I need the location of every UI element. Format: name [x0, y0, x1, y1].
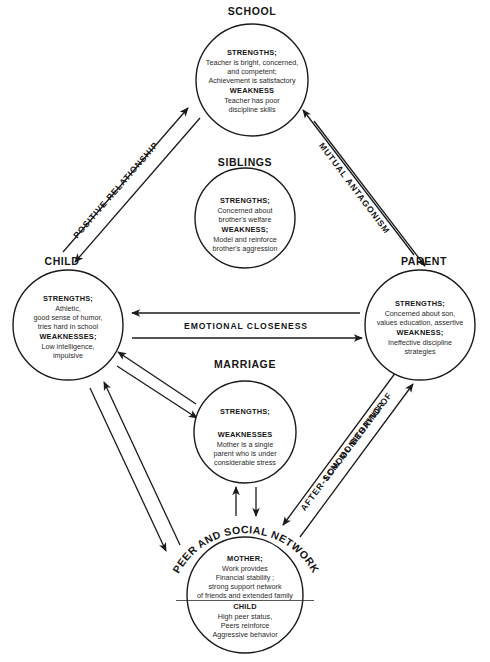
ecomap-svg: POSITIVE RELATIONSHIP MUTUAL ANTAGONISM …: [0, 0, 490, 662]
marriage-weaknesses-line-3: considerable stress: [214, 458, 276, 467]
parent-strengths-line-1: Concerned about son,: [385, 309, 456, 318]
node-child[interactable]: CHILD STRENGTHS; Athletic, good sense of…: [13, 255, 123, 380]
child-weaknesses-heading: WEAKNESSES;: [39, 332, 96, 341]
edge-label-low-monitoring-line2: AFTER-SCHOOL BEHAVIOR: [298, 400, 387, 513]
child-weaknesses-line-1: Low intelligence,: [41, 342, 94, 351]
marriage-weaknesses-line-2: parent who is under: [213, 449, 277, 458]
siblings-weakness-line-2: brother's aggression: [213, 244, 278, 253]
network-mother-line-2: Financial stability ;: [216, 573, 275, 582]
node-school[interactable]: SCHOOL STRENGTHS; Teacher is bright, con…: [196, 5, 308, 136]
node-title-siblings: SIBLINGS: [218, 156, 272, 168]
parent-weakness-line-2: strategies: [404, 347, 436, 356]
edge-marriage-network: [236, 487, 256, 516]
child-strengths-line-2: good sense of humor,: [33, 313, 102, 322]
marriage-strengths-heading: STRENGTHS;: [220, 407, 270, 416]
parent-weakness-heading: WEAKNESS;: [397, 328, 444, 337]
edge-mutual-antagonism: MUTUAL ANTAGONISM: [303, 110, 425, 266]
node-title-school: SCHOOL: [228, 5, 277, 17]
siblings-weakness-heading: WEAKNESS;: [222, 225, 269, 234]
child-strengths-line-3: tries hard in school: [38, 322, 99, 331]
school-weakness-line-2: discipline skills: [228, 105, 276, 114]
node-marriage[interactable]: MARRIAGE STRENGTHS; WEAKNESSES Mother is…: [194, 358, 296, 483]
node-title-marriage: MARRIAGE: [214, 358, 276, 370]
node-siblings[interactable]: SIBLINGS STRENGTHS; Concerned about brot…: [195, 156, 295, 268]
network-child-line-3: Aggressive behavior: [212, 630, 278, 639]
child-weaknesses-line-2: impulsive: [53, 351, 83, 360]
school-weakness-heading: WEAKNESS: [230, 86, 274, 95]
school-strengths-line-3: Achievement is satisfactory: [208, 76, 295, 85]
node-title-parent: PARENT: [401, 255, 447, 267]
edge-label-emotional-closeness: EMOTIONAL CLOSENESS: [184, 321, 308, 331]
school-strengths-line-2: and competent;: [227, 67, 277, 76]
ecomap-diagram-page: POSITIVE RELATIONSHIP MUTUAL ANTAGONISM …: [0, 0, 490, 662]
network-child-line-1: High peer status,: [218, 612, 272, 621]
parent-strengths-heading: STRENGTHS;: [395, 299, 445, 308]
edge-child-marriage: [117, 352, 197, 418]
siblings-strengths-line-2: brother's welfare: [219, 215, 272, 224]
parent-weakness-line-1: Ineffective discipline: [388, 338, 452, 347]
school-strengths-heading: STRENGTHS;: [227, 48, 277, 57]
siblings-strengths-heading: STRENGTHS;: [220, 196, 270, 205]
network-mother-heading: MOTHER;: [227, 554, 263, 563]
network-child-heading: CHILD: [233, 602, 257, 611]
school-weakness-line-1: Teacher has poor: [224, 96, 280, 105]
child-strengths-line-1: Athletic,: [55, 304, 81, 313]
marriage-weaknesses-heading: WEAKNESSES: [218, 430, 273, 439]
network-mother-line-4: of friends and extended family: [197, 591, 293, 600]
node-parent[interactable]: PARENT STRENGTHS; Concerned about son, v…: [365, 255, 475, 380]
parent-strengths-line-2: values education, assertive: [377, 318, 464, 327]
edge-label-mutual-antagonism: MUTUAL ANTAGONISM: [317, 141, 392, 236]
network-child-line-2: Peers reinforce: [221, 621, 270, 630]
siblings-strengths-line-1: Concerned about: [217, 206, 272, 215]
node-title-child: CHILD: [44, 255, 79, 267]
child-strengths-heading: STRENGTHS;: [43, 294, 93, 303]
edge-label-positive-relationship: POSITIVE RELATIONSHIP: [71, 140, 160, 240]
school-strengths-line-1: Teacher is bright, concerned,: [206, 58, 298, 67]
edge-child-network: [90, 382, 180, 551]
marriage-weaknesses-line-1: Mother is a single: [217, 440, 273, 449]
edge-low-monitoring: LOW MONITORING OF AFTER-SCHOOL BEHAVIOR: [283, 372, 413, 537]
edge-positive-relationship: POSITIVE RELATIONSHIP: [63, 108, 200, 262]
network-mother-line-1: Work provides: [222, 564, 268, 573]
network-mother-line-3: strong support network: [208, 582, 282, 591]
siblings-weakness-line-1: Model and reinforce: [213, 235, 277, 244]
edge-emotional-closeness: EMOTIONAL CLOSENESS: [132, 313, 362, 338]
node-peer-social-network[interactable]: PEER AND SOCIAL NETWORK MOTHER; Work pro…: [170, 523, 322, 653]
